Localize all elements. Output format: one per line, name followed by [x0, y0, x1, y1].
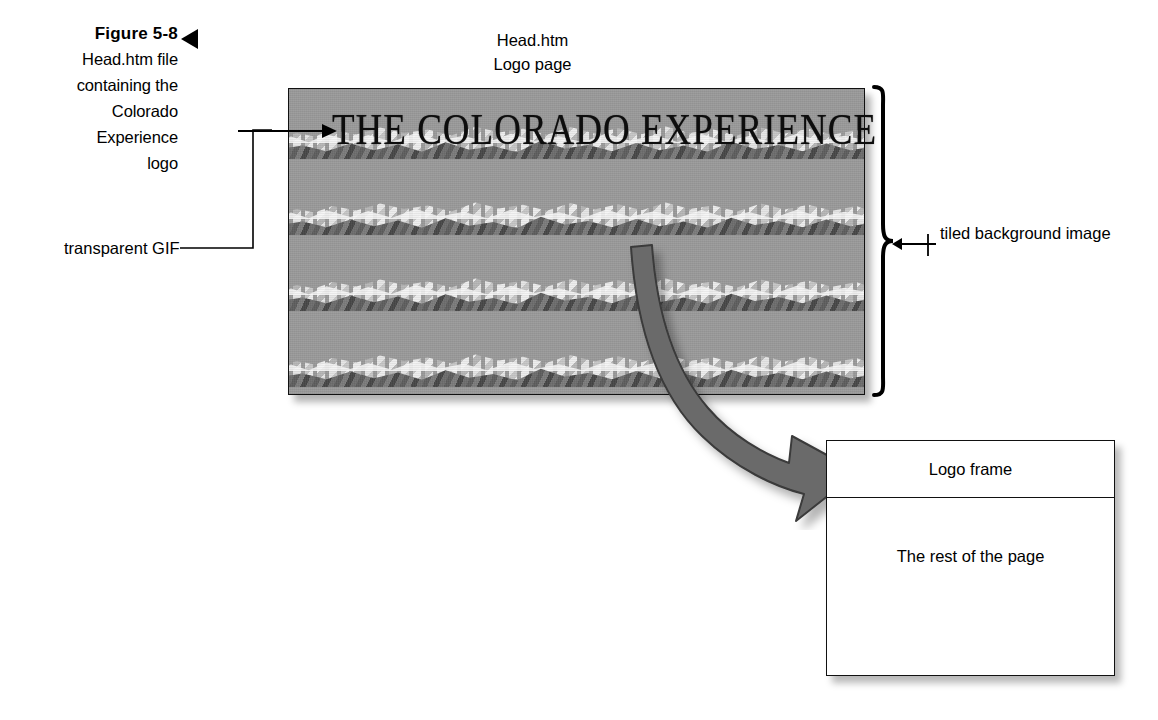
rest-of-page-cell: The rest of the page — [827, 498, 1114, 675]
tiled-background-label: tiled background image — [940, 222, 1120, 245]
figure-caption-block: Figure 5-8 Head.htm file containing the … — [10, 22, 178, 176]
caption-line-1: Head.htm file — [10, 46, 178, 72]
logo-pointer-arrow-icon — [238, 120, 338, 144]
logo-frame-cell: Logo frame — [827, 441, 1114, 498]
background-tile-row — [289, 241, 864, 317]
page-labels: Head.htm Logo page — [440, 28, 625, 76]
caption-pointer-triangle-icon — [181, 29, 198, 49]
caption-line-5: logo — [10, 150, 178, 176]
tiled-background-arrow-icon — [892, 234, 936, 256]
background-tile-row — [289, 393, 864, 395]
frameset-diagram: Logo frame The rest of the page — [826, 440, 1115, 676]
head-htm-label: Head.htm — [440, 28, 625, 52]
caption-line-4: Experience — [10, 124, 178, 150]
caption-line-3: Colorado — [10, 98, 178, 124]
background-tile-row — [289, 165, 864, 241]
rest-of-page-label: The rest of the page — [897, 547, 1045, 566]
transparent-gif-label: transparent GIF — [64, 238, 180, 258]
figure-number: Figure 5-8 — [10, 22, 178, 46]
colorado-experience-logo-text: THE COLORADO EXPERIENCE — [332, 102, 818, 159]
logo-frame-label: Logo frame — [929, 460, 1012, 479]
caption-line-2: containing the — [10, 72, 178, 98]
background-tile-row — [289, 317, 864, 393]
logo-page-label: Logo page — [440, 52, 625, 76]
